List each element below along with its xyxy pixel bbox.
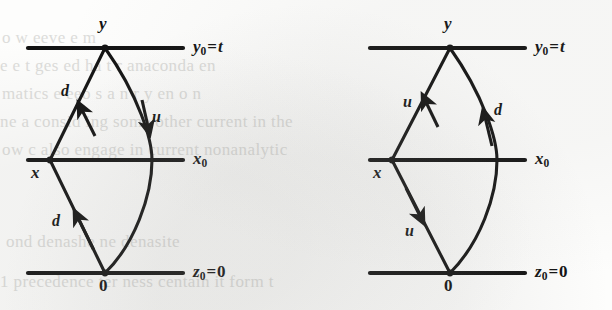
axis-rhs-t: t [560, 37, 565, 56]
edge-label-right-curve-d: d [494, 101, 502, 119]
axis-label-top-right: y0=t [535, 37, 565, 57]
vertex-label-y-right: y [444, 14, 452, 34]
edge-upper-left-line [50, 48, 105, 160]
edge-label-lower-left-u: u [405, 222, 414, 240]
arrowhead-lower-left [406, 188, 422, 220]
edge-label-lower-left-d: d [52, 212, 60, 230]
axis-label-middle-left: x0 [193, 149, 207, 169]
arrowhead-upper-left [424, 98, 438, 127]
axis-var-z: z [535, 262, 542, 281]
axis-var-y: y [193, 37, 201, 56]
vertex-label-x-left: x [31, 163, 40, 183]
vertex-label-y-left: y [99, 14, 107, 34]
axis-eq: = [205, 262, 217, 281]
diagram-canvas [0, 0, 612, 310]
axis-var-y: y [535, 37, 543, 56]
axis-label-middle-right: x0 [535, 149, 549, 169]
vertex-dot-x [47, 157, 54, 164]
vertex-label-0-left: 0 [99, 276, 108, 296]
vertex-label-x-right: x [373, 163, 382, 183]
edge-label-right-curve-u: u [152, 108, 161, 126]
diagram-right [370, 45, 525, 277]
axis-eq: = [548, 37, 560, 56]
axis-label-bottom-left: z0=0 [193, 262, 226, 282]
arrowhead-lower-left [76, 214, 94, 250]
arrowhead-upper-left [80, 106, 95, 136]
axis-rhs-t: t [218, 37, 223, 56]
axis-rhs-0: 0 [559, 262, 568, 281]
axis-var-z: z [193, 262, 200, 281]
vertex-label-0-right: 0 [444, 276, 453, 296]
vertex-dot-y [447, 45, 454, 52]
axis-eq: = [547, 262, 559, 281]
axis-var-x: x [535, 149, 544, 168]
vertex-dot-y [102, 45, 109, 52]
diagram-left [28, 45, 183, 277]
axis-label-top-left: y0=t [193, 37, 223, 57]
axis-sub-0: 0 [544, 157, 550, 169]
edge-label-upper-left-d: d [61, 82, 69, 100]
axis-sub-0: 0 [202, 157, 208, 169]
edge-upper-left-line [392, 48, 450, 160]
vertex-dot-x [389, 157, 396, 164]
axis-rhs-0: 0 [217, 262, 226, 281]
figure-root: o w eeve e m e e t ges ed ha t r anacond… [0, 0, 612, 310]
axis-var-x: x [193, 149, 202, 168]
edge-label-upper-left-u: u [403, 93, 412, 111]
axis-eq: = [206, 37, 218, 56]
axis-label-bottom-right: z0=0 [535, 262, 568, 282]
